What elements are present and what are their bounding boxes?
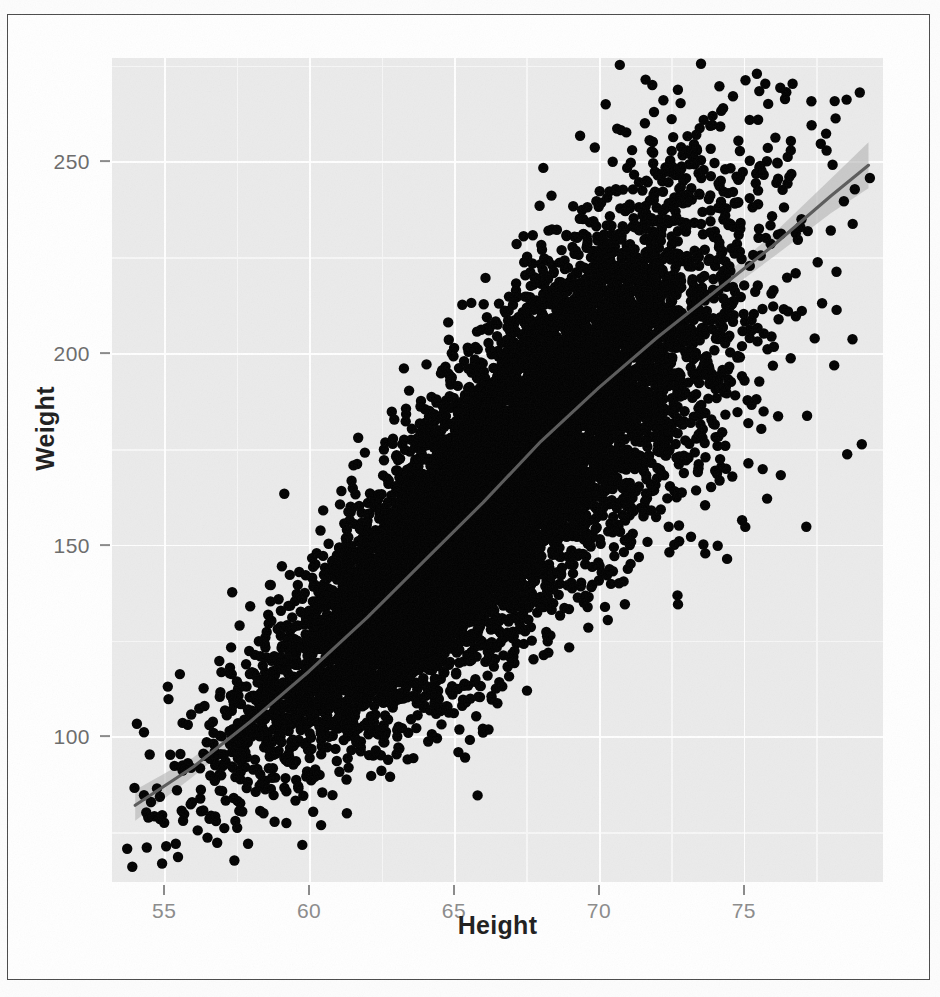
y-tick-label: 100 (28, 726, 90, 747)
scatter-point-outlier (478, 727, 488, 737)
y-axis-title: Weight (31, 329, 60, 529)
scatter-point-outlier (443, 317, 453, 327)
x-axis-title: Height (112, 911, 883, 940)
scatter-point-outlier (797, 306, 807, 316)
scatter-point-outlier (855, 87, 865, 97)
scatter-point-outlier (402, 754, 412, 764)
plot-canvas (112, 58, 883, 882)
x-tick-mark (308, 885, 310, 895)
y-tick-label: 150 (28, 534, 90, 555)
x-tick-mark (453, 885, 455, 895)
x-tick-mark (163, 885, 165, 895)
scanned-page: 100150200250 5560657075 Height Weight (0, 0, 940, 997)
y-tick-mark (100, 735, 110, 737)
y-tick-label: 250 (28, 151, 90, 172)
y-tick-mark (100, 161, 110, 163)
scatter-point-outlier (817, 298, 827, 308)
y-tick-mark (100, 544, 110, 546)
scatter-point-outlier (142, 842, 152, 852)
scatter-point-outlier (127, 862, 137, 872)
x-tick-mark (598, 885, 600, 895)
y-tick-mark (100, 352, 110, 354)
scatter-point-outlier (171, 839, 181, 849)
scatter-point-outlier (391, 451, 401, 461)
scatter-chart: 100150200250 5560657075 Height Weight (7, 14, 930, 980)
plot-panel (112, 58, 883, 882)
scatter-point-outlier (826, 225, 836, 235)
scatter-points (122, 59, 875, 872)
x-tick-mark (743, 885, 745, 895)
